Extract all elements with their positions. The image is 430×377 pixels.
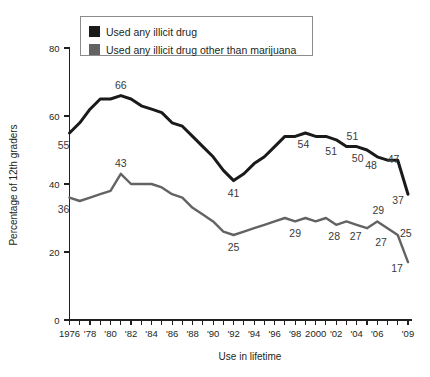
x-tick-label: '78 xyxy=(84,328,96,339)
legend-swatch-2 xyxy=(89,44,100,55)
y-tick-label: 0 xyxy=(54,315,59,326)
x-tick-label: '82 xyxy=(125,328,137,339)
data-label: 25 xyxy=(400,227,412,239)
x-tick-label: '98 xyxy=(289,328,301,339)
x-tick-label: '96 xyxy=(268,328,280,339)
line-chart-figure: 020406080 1976'78'80'82'84'86'88'90'92'9… xyxy=(0,0,430,377)
legend-label-2: Used any illicit drug other than marijua… xyxy=(106,44,296,56)
data-label: 36 xyxy=(58,203,70,215)
x-tick-label: 1976 xyxy=(59,328,80,339)
x-tick-label: '02 xyxy=(330,328,342,339)
x-tick-label: '84 xyxy=(145,328,157,339)
data-point-labels: 5566415451515048473736432529282729272517 xyxy=(58,79,412,275)
data-label: 43 xyxy=(115,157,127,169)
data-label: 55 xyxy=(58,139,70,151)
x-tick-label: '88 xyxy=(186,328,198,339)
x-tick-label: '04 xyxy=(351,328,363,339)
y-tick-label: 40 xyxy=(49,179,60,190)
data-label: 54 xyxy=(298,138,310,150)
x-axis-ticks: 1976'78'80'82'84'86'88'90'92'94'96'98200… xyxy=(59,320,414,339)
data-label: 51 xyxy=(325,145,337,157)
x-tick-label: '86 xyxy=(166,328,178,339)
legend-swatch-1 xyxy=(89,26,100,37)
chart-legend: Used any illicit drugUsed any illicit dr… xyxy=(80,16,312,56)
data-label: 48 xyxy=(365,159,377,171)
x-tick-label: '92 xyxy=(227,328,239,339)
data-label: 47 xyxy=(388,153,400,165)
y-tick-label: 80 xyxy=(49,43,60,54)
data-label: 51 xyxy=(347,130,359,142)
x-tick-label: '09 xyxy=(402,328,414,339)
data-label: 27 xyxy=(350,230,362,242)
data-label: 29 xyxy=(372,204,384,216)
y-axis-ticks: 020406080 xyxy=(49,43,70,326)
data-label: 29 xyxy=(289,227,301,239)
data-label: 37 xyxy=(392,194,404,206)
x-tick-label: '80 xyxy=(104,328,116,339)
x-tick-label: 2000 xyxy=(305,328,326,339)
data-label: 66 xyxy=(115,79,127,91)
x-tick-label: '06 xyxy=(371,328,383,339)
data-label: 50 xyxy=(352,152,364,164)
data-label: 17 xyxy=(391,262,403,274)
series-line-1 xyxy=(70,96,409,195)
y-tick-label: 20 xyxy=(49,247,60,258)
legend-label-1: Used any illicit drug xyxy=(106,26,197,38)
x-tick-label: '94 xyxy=(248,328,260,339)
x-axis-title: Use in lifetime xyxy=(219,351,282,362)
y-tick-label: 60 xyxy=(49,111,60,122)
chart-canvas: 020406080 1976'78'80'82'84'86'88'90'92'9… xyxy=(0,0,430,377)
x-tick-label: '90 xyxy=(207,328,219,339)
y-axis-title: Percentage of 12th graders xyxy=(8,124,19,245)
data-label: 41 xyxy=(228,187,240,199)
data-label: 28 xyxy=(328,230,340,242)
data-label: 27 xyxy=(375,236,387,248)
data-label: 25 xyxy=(228,241,240,253)
